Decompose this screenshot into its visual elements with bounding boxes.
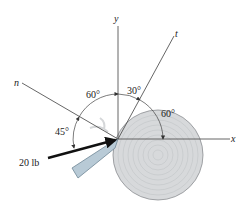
angle-label-n-y: 60° [86,89,100,100]
force-label: 20 lb [19,157,39,168]
y-axis-label: y [113,13,119,24]
diagram-canvas: y t n x 60° 30° 60° 45° 20 lb [0,0,251,223]
angle-label-y-t: 30° [127,85,141,96]
chip-curl [90,118,108,132]
t-axis-label: t [175,28,178,39]
angle-label-force-n: 45° [55,126,69,137]
angle-label-t-x: 60° [161,108,175,119]
arc-force-to-n [73,117,79,148]
free-body-diagram: y t n x 60° 30° 60° 45° 20 lb [0,0,251,223]
x-axis-label: x [230,133,236,144]
n-axis-label: n [14,77,19,88]
n-axis [22,83,118,139]
